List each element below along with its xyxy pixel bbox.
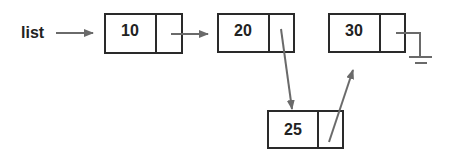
- linked-list-diagram: list 10 20 30 25: [0, 0, 453, 158]
- head-label: list: [21, 24, 45, 41]
- node-value: 30: [345, 22, 363, 39]
- node-box: [329, 14, 405, 52]
- node-box: [268, 111, 343, 148]
- node-box: [105, 14, 182, 53]
- node-30: 30: [329, 14, 405, 52]
- node-25: 25: [268, 111, 343, 148]
- node-value: 10: [121, 22, 139, 39]
- node-10: 10: [105, 14, 182, 53]
- node-value: 25: [284, 121, 302, 138]
- node-value: 20: [234, 22, 252, 39]
